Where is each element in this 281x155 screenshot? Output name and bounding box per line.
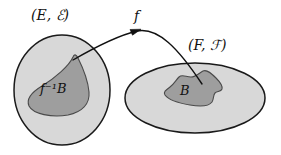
- diagram-canvas: [0, 0, 281, 155]
- image-set-label: B: [180, 84, 190, 97]
- preimage-diagram: (E, ℰ) (F, ℱ) f f⁻¹B B: [0, 0, 281, 155]
- codomain-space-label: (F, ℱ): [188, 38, 226, 52]
- preimage-set-label: f⁻¹B: [40, 82, 66, 95]
- domain-space-label: (E, ℰ): [31, 8, 69, 22]
- map-arrowhead-icon: [130, 29, 141, 35]
- map-label: f: [134, 9, 139, 23]
